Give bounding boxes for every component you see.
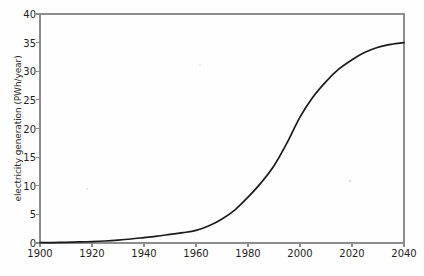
x-tick-marks: [40, 243, 404, 247]
y-tick-marks: [36, 14, 40, 243]
data-series-line: [40, 43, 404, 243]
axis-frame: [40, 14, 404, 243]
plot-canvas: [0, 0, 424, 276]
chart-figure: electricity generation (PWh/year) 051015…: [0, 0, 424, 276]
